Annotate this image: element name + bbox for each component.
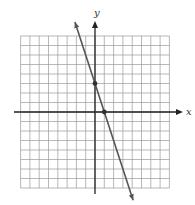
y-axis-arrow-icon xyxy=(92,21,98,28)
x-axis-label: x xyxy=(186,106,192,117)
line-arrow-icon xyxy=(129,194,134,200)
x-axis-arrow-icon xyxy=(176,109,183,115)
data-point xyxy=(93,81,98,86)
data-point xyxy=(102,110,107,115)
axes: x y xyxy=(14,7,192,194)
coordinate-plane: x y xyxy=(0,0,195,205)
y-axis-label: y xyxy=(93,7,100,18)
line-arrow-icon xyxy=(74,22,79,28)
